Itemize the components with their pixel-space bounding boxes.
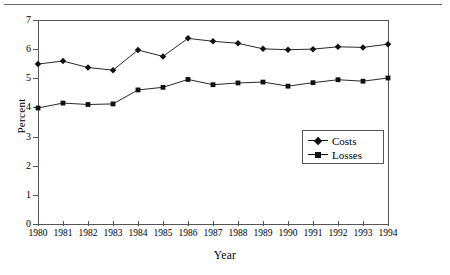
data-point-costs <box>35 61 42 68</box>
data-point-losses <box>61 101 66 106</box>
square-marker-icon <box>308 150 328 160</box>
data-point-losses <box>186 77 191 82</box>
data-point-costs <box>260 46 267 53</box>
data-point-losses <box>236 81 241 86</box>
data-point-costs <box>335 44 342 51</box>
data-point-losses <box>86 102 91 107</box>
data-point-losses <box>261 80 266 85</box>
chart-legend: Costs Losses <box>302 130 384 164</box>
data-point-costs <box>285 46 292 53</box>
data-point-losses <box>161 85 166 90</box>
data-point-losses <box>311 80 316 85</box>
data-point-costs <box>185 35 192 42</box>
data-point-costs <box>160 53 167 60</box>
legend-label-losses: Losses <box>332 150 362 161</box>
data-point-losses <box>136 88 141 93</box>
data-point-costs <box>85 64 92 71</box>
data-point-losses <box>286 84 291 89</box>
data-point-costs <box>360 44 367 51</box>
legend-item-costs: Costs <box>308 134 383 148</box>
data-point-losses <box>211 82 216 87</box>
chart-page: 01234567 1980198119821983198419851986198… <box>0 0 450 275</box>
diamond-marker-icon <box>308 136 328 146</box>
legend-label-costs: Costs <box>332 136 356 147</box>
data-point-costs <box>235 40 242 47</box>
data-point-losses <box>336 77 341 82</box>
data-point-losses <box>36 106 41 111</box>
data-point-costs <box>210 38 217 45</box>
legend-item-losses: Losses <box>308 148 383 162</box>
data-point-costs <box>60 58 67 65</box>
data-point-losses <box>361 79 366 84</box>
data-point-losses <box>386 76 391 81</box>
data-point-losses <box>111 102 116 107</box>
data-point-costs <box>385 41 392 48</box>
data-point-costs <box>310 46 317 53</box>
